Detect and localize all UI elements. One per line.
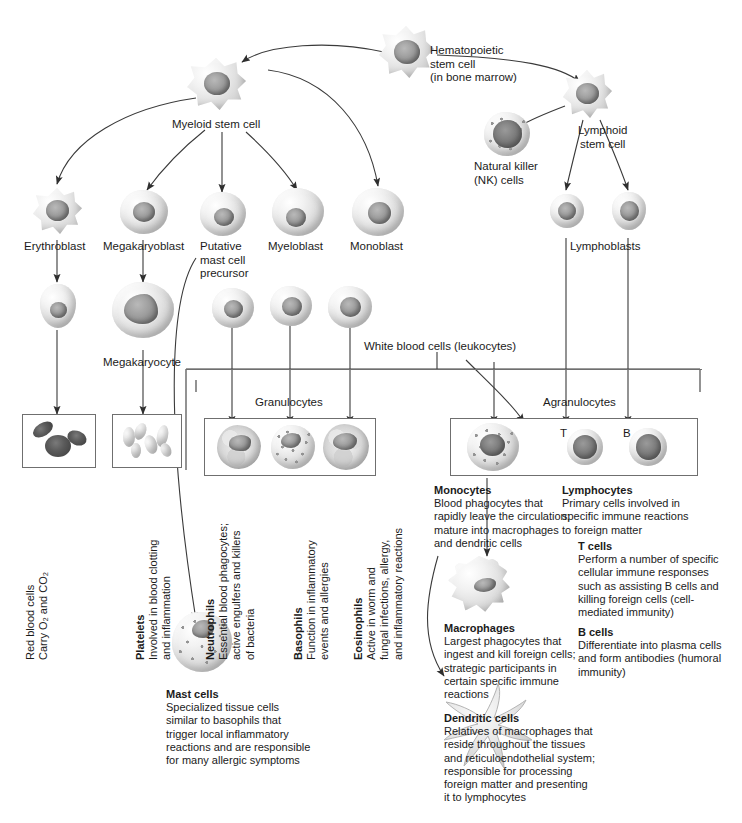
- label-erythroblast: Erythroblast: [24, 240, 85, 254]
- cell-nucleus: [229, 435, 251, 451]
- note-title: Monocytes: [434, 484, 491, 496]
- note-line: to foreign matter: [562, 524, 642, 536]
- cell-b-lymphocyte: [629, 428, 667, 466]
- platelet: [158, 442, 173, 459]
- cell-nucleus: [124, 294, 158, 324]
- cell-t-lymphocyte: [567, 429, 603, 465]
- note-title: Macrophages: [444, 622, 515, 634]
- note-line: active engulfers and killers: [230, 530, 242, 660]
- box-red-blood-cells: [22, 414, 96, 468]
- label-myeloid-stem-cell: Myeloid stem cell: [172, 118, 260, 132]
- label-t-cell-tag: T: [560, 427, 567, 441]
- note-line: strategic participants in: [444, 662, 557, 674]
- label-b-cell-tag: B: [623, 427, 631, 441]
- note-title: Neutrophils: [204, 599, 216, 660]
- note-mast-cells: Mast cells Specialized tissue cells simi…: [166, 688, 356, 767]
- label-hematopoietic-stem-cell: Hematopoieticstem cell(in bone marrow): [430, 44, 517, 85]
- hematopoiesis-diagram: Hematopoieticstem cell(in bone marrow) M…: [0, 0, 742, 823]
- cell-nucleus: [368, 202, 391, 224]
- note-line: of bacteria: [244, 609, 256, 660]
- label-monoblast: Monoblast: [350, 240, 403, 254]
- cell-nucleus: [620, 201, 639, 221]
- cell-nucleus: [493, 120, 522, 148]
- platelet: [131, 443, 141, 458]
- cell-granulocyte-precursor-1: [212, 288, 254, 328]
- cell-erythrocyte-maturing: [40, 284, 76, 328]
- note-lymphocytes: Lymphocytes Primary cells involved in sp…: [562, 484, 737, 537]
- cell-granulocyte-precursor-2: [270, 286, 312, 326]
- cell-nucleus: [50, 302, 67, 318]
- cell-basophil: [271, 425, 315, 469]
- bracket-white-blood-cells: [186, 369, 702, 370]
- note-basophils: Basophils Function in inflammatory event…: [292, 540, 332, 660]
- note-eosinophils: Eosinophils Active in worm and fungal in…: [352, 528, 405, 660]
- note-line: rapidly leave the circulation;: [434, 510, 570, 522]
- note-line: mature into macrophages: [434, 524, 559, 536]
- cell-macrophage: [448, 556, 510, 614]
- box-agranulocytes: [450, 418, 698, 476]
- note-line: Relatives of macrophages that: [444, 725, 593, 737]
- note-line: Carry O₂ and CO₂: [37, 572, 49, 660]
- note-line: reactions and are responsible: [166, 741, 310, 753]
- label-putative-mast-precursor: Putativemast cellprecursor: [200, 240, 249, 281]
- note-dendritic-cells: Dendritic cells Relatives of macrophages…: [444, 712, 624, 804]
- label-agranulocytes: Agranulocytes: [543, 396, 616, 410]
- note-red-blood-cells: Red blood cells Carry O₂ and CO₂: [24, 572, 50, 660]
- note-line: reactions: [444, 688, 489, 700]
- note-line: Blood phagocytes that: [434, 497, 543, 509]
- box-platelets: [112, 414, 182, 468]
- cell-nucleus: [558, 202, 576, 220]
- cell-lymphoblast-right: [612, 192, 646, 230]
- note-line: foreign matter and presenting: [444, 778, 588, 790]
- note-line: Primary cells involved in: [562, 497, 680, 509]
- cell-monocyte: [467, 423, 519, 471]
- note-line: Involved in blood clotting: [147, 540, 159, 660]
- cell-natural-killer: [484, 112, 530, 156]
- cell-nucleus: [46, 200, 69, 221]
- label-white-blood-cells: White blood cells (leukocytes): [364, 340, 516, 354]
- note-line: similar to basophils that: [166, 714, 281, 726]
- note-line: Essential blood phagocytes;: [217, 523, 229, 660]
- cell-nucleus: [214, 208, 234, 226]
- note-title: Lymphocytes: [562, 484, 633, 496]
- note-title: Mast cells: [166, 688, 219, 700]
- note-line: trigger local inflammatory: [166, 728, 289, 740]
- note-line: cellular immune responses: [578, 566, 709, 578]
- cell-myeloid-stem-cell: [186, 58, 246, 110]
- cell-megakaryoblast: [120, 190, 168, 234]
- cell-nucleus: [480, 434, 505, 456]
- note-line: fungal infections, allergy,: [378, 540, 390, 660]
- note-line: and inflammatory reactions: [392, 528, 404, 660]
- note-line: reside throughout the tissues: [444, 738, 585, 750]
- cell-nucleus: [133, 202, 155, 222]
- note-line: such as assisting B cells and: [578, 580, 719, 592]
- note-line: specific immune reactions: [562, 510, 689, 522]
- note-line: events and allergies: [318, 562, 330, 660]
- cell-nucleus: [224, 300, 243, 318]
- label-megakaryoblast: Megakaryoblast: [103, 240, 184, 254]
- note-line: Perform a number of specific: [578, 553, 719, 565]
- cell-hematopoietic-stem-cell: [378, 26, 434, 78]
- cell-lymphoblast-left: [550, 194, 584, 228]
- cell-myeloblast: [272, 188, 324, 236]
- cell-nucleus: [333, 433, 357, 450]
- cell-nucleus: [394, 40, 420, 64]
- note-line: Red blood cells: [24, 585, 36, 660]
- note-line: mediated immunity): [578, 606, 674, 618]
- cell-nucleus: [282, 297, 302, 316]
- cell-putative-mast-precursor: [200, 192, 246, 236]
- note-platelets: Platelets Involved in blood clotting and…: [134, 540, 174, 660]
- cell-nucleus: [204, 72, 230, 95]
- note-line: killing foreign cells (cell-: [578, 593, 694, 605]
- note-title: Basophils: [292, 607, 304, 660]
- cell-granulocyte-precursor-3: [328, 286, 372, 328]
- cell-eosinophil: [323, 424, 369, 470]
- note-line: it to lymphocytes: [444, 791, 526, 803]
- note-line: for many allergic symptoms: [166, 754, 300, 766]
- note-macrophages: Macrophages Largest phagocytes that inge…: [444, 622, 604, 701]
- cell-nucleus: [286, 208, 306, 227]
- note-title: Dendritic cells: [444, 712, 519, 724]
- cell-megakaryocyte: [112, 282, 174, 338]
- note-line: Specialized tissue cells: [166, 701, 279, 713]
- note-line: responsible for processing: [444, 765, 572, 777]
